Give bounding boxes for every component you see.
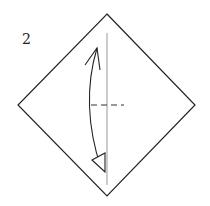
- step-number: 2: [22, 31, 31, 47]
- diagram-canvas: [0, 0, 210, 206]
- origami-diagram: 2: [0, 0, 210, 206]
- arrowhead-hollow-icon: [92, 153, 105, 172]
